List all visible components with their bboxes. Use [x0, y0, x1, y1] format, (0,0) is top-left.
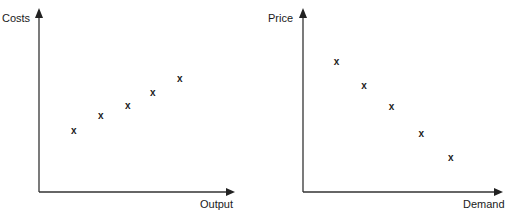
x-axis-arrow-icon [494, 188, 503, 196]
y-axis-arrow-icon [299, 8, 307, 18]
axes-price-demand [0, 0, 511, 223]
data-point-marker: x [387, 102, 397, 112]
data-point-marker: x [331, 57, 341, 67]
x-axis-label: Demand [463, 198, 505, 210]
data-point-marker: x [359, 81, 369, 91]
chart-price-demand: Price Demand xxxxx [0, 0, 511, 223]
data-point-marker: x [446, 153, 456, 163]
data-point-marker: x [416, 129, 426, 139]
y-axis-label: Price [268, 12, 293, 24]
